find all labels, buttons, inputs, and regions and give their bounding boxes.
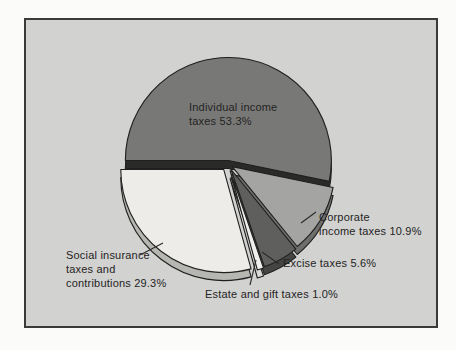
slice-label-estate-and-gift-taxes: Estate and gift taxes 1.0%	[205, 287, 338, 301]
slice-label-individual-income-taxes: Individual income taxes 53.3%	[189, 100, 277, 128]
slice-label-social-insurance: Social insurance taxes and contributions…	[66, 248, 166, 290]
slice-label-corporate-income-taxes: Corporate income taxes 10.9%	[319, 210, 422, 238]
slice-label-excise-taxes: Excise taxes 5.6%	[283, 256, 376, 270]
